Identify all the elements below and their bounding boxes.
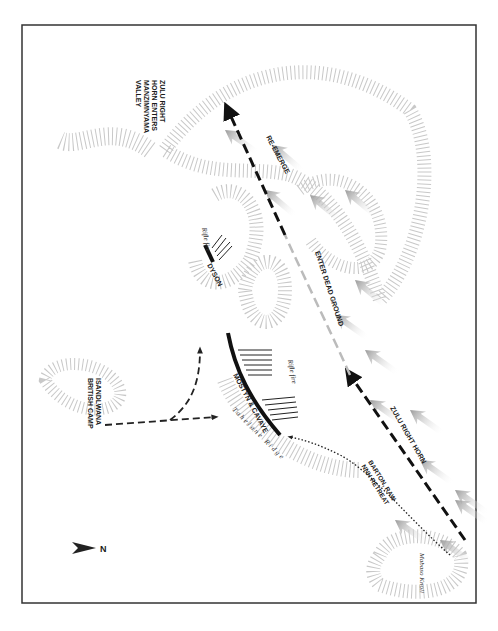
dyson-rifle-fire <box>212 235 232 260</box>
label-barton-retreat: BARTON, RAW NNH RETREAT <box>360 459 398 508</box>
label-zulu-right-horn: ZULU RIGHT HORN <box>389 405 428 465</box>
label-mabaso-knoll: Mabaso Knoll <box>418 552 426 593</box>
label-british-camp: ISANDLWANA BRITISH CAMP <box>87 378 102 429</box>
north-arrow-icon <box>72 542 96 554</box>
label-rifle-fire-2: Rifle fire <box>286 358 298 384</box>
re-emerge-route <box>228 110 285 235</box>
camp-to-dyson-route <box>170 350 200 420</box>
label-dyson: DYSON <box>206 262 224 287</box>
zulu-advance-arrows <box>220 123 492 569</box>
label-north: N <box>100 544 107 554</box>
label-zulu-right-horn-valley: ZULU RIGHT HORN ENTERS MANZIMNYAMA VALLE… <box>135 80 166 135</box>
zulu-right-horn-route <box>350 375 465 540</box>
label-enter-dead-ground: ENTER DEAD GROUND <box>314 250 345 327</box>
label-rifle-fire-1: Rifle fire <box>200 226 212 252</box>
camp-to-ridge-route <box>105 417 215 425</box>
battle-map: ZULU RIGHT HORN ENTERS MANZIMNYAMA VALLE… <box>0 0 498 631</box>
